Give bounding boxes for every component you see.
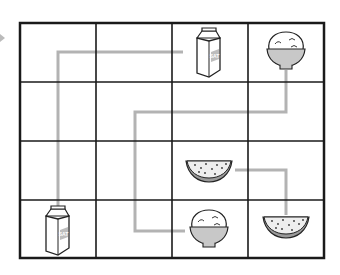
milk-carton-icon[interactable] [46, 206, 69, 255]
rice-bowl-icon[interactable] [267, 32, 305, 69]
milk-carton-icon[interactable] [197, 28, 220, 77]
matching-grid-puzzle: SAT [0, 0, 340, 275]
rice-bowl-icon[interactable] [190, 210, 228, 247]
path-rice [135, 70, 286, 231]
watermelon-slice-icon[interactable] [186, 161, 232, 182]
path-milk [58, 52, 183, 210]
path-watermelon [235, 170, 286, 215]
watermelon-slice-icon[interactable] [263, 217, 309, 238]
